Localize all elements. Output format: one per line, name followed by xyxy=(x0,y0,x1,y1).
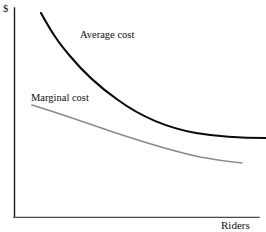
y-axis-label: $ xyxy=(3,4,8,15)
x-axis-label: Riders xyxy=(221,220,250,231)
average-cost-label: Average cost xyxy=(80,30,134,41)
cost-curves-figure: $ Riders Average cost Marginal cost xyxy=(0,0,266,232)
marginal-cost-label: Marginal cost xyxy=(31,93,89,104)
